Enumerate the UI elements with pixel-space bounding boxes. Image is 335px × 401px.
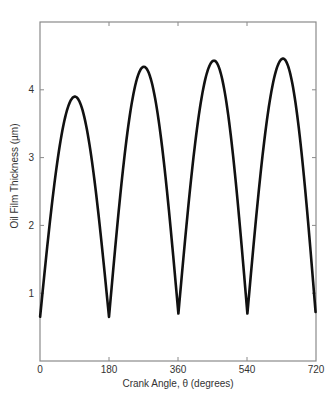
x-tick-label: 720 xyxy=(308,364,325,375)
x-tick-label: 360 xyxy=(170,364,187,375)
x-tick-labels: 0180360540720 xyxy=(37,364,325,375)
y-tick-label: 4 xyxy=(28,84,34,95)
chart: 0180360540720 1234 Crank Angle, θ (degre… xyxy=(0,0,335,401)
y-tick-label: 1 xyxy=(28,288,34,299)
x-axis-label: Crank Angle, θ (degrees) xyxy=(122,378,233,389)
x-tick-label: 180 xyxy=(101,364,118,375)
x-tick-label: 0 xyxy=(37,364,43,375)
y-tick-labels: 1234 xyxy=(28,84,34,298)
x-tick-label: 540 xyxy=(239,364,256,375)
data-line xyxy=(40,59,315,317)
y-tick-label: 2 xyxy=(28,220,34,231)
y-axis-label: Oil Film Thickness (µm) xyxy=(9,123,20,228)
y-tick-label: 3 xyxy=(28,152,34,163)
